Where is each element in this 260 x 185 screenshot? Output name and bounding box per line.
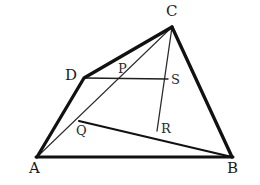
figure-canvas	[0, 0, 260, 185]
vertex-label-A: A	[29, 161, 40, 176]
geometry-figure: A B C D P S Q R	[0, 0, 260, 185]
vertex-label-D: D	[65, 68, 77, 83]
vertex-label-C: C	[166, 4, 177, 19]
segment-C-B	[172, 27, 232, 157]
point-label-P: P	[118, 62, 127, 75]
segment-Q-B	[79, 121, 232, 157]
segment-D-S	[84, 78, 168, 79]
vertex-label-B: B	[227, 161, 238, 176]
point-label-R: R	[161, 122, 171, 135]
point-label-Q: Q	[76, 124, 87, 137]
point-label-S: S	[171, 73, 180, 86]
